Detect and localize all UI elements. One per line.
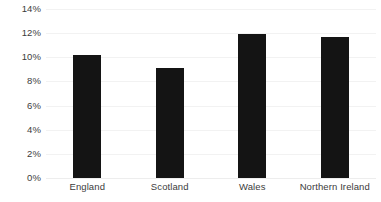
bars-group <box>46 9 376 178</box>
y-tick-label: 12% <box>0 28 41 38</box>
bar-chart: 14% 12% 10% 8% 6% 4% 2% 0% England Scotl… <box>0 0 381 202</box>
y-axis: 14% 12% 10% 8% 6% 4% 2% 0% <box>0 0 41 202</box>
x-tick-label-wales: Wales <box>239 181 266 193</box>
y-tick-label: 6% <box>0 101 41 111</box>
plot-area <box>46 9 376 178</box>
y-tick-label: 4% <box>0 125 41 135</box>
x-tick-label-england: England <box>69 181 105 193</box>
x-tick-label-northern-ireland: Northern Ireland <box>300 181 370 193</box>
bar-wales <box>238 34 266 178</box>
y-tick-label: 14% <box>0 4 41 14</box>
y-tick-label: 2% <box>0 149 41 159</box>
bar-northern-ireland <box>321 37 349 178</box>
y-tick-label: 10% <box>0 52 41 62</box>
x-tick-label-scotland: Scotland <box>151 181 189 193</box>
y-tick-label: 0% <box>0 173 41 183</box>
y-tick-label: 8% <box>0 76 41 86</box>
x-axis: England Scotland Wales Northern Ireland <box>46 181 376 202</box>
bar-england <box>73 55 101 178</box>
bar-scotland <box>156 68 184 178</box>
gridline <box>46 178 376 179</box>
